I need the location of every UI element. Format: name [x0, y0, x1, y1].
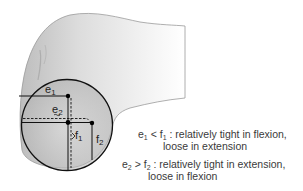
- diagram-stage: e1 e2 f1 f2 e1 < f1 : relatively tight i…: [0, 0, 303, 191]
- point-e1: [66, 94, 70, 98]
- point-f2: [90, 121, 94, 125]
- point-center: [66, 120, 71, 125]
- caption-2-line-2: loose in flexion: [148, 170, 217, 182]
- condyle-circle: [22, 80, 113, 171]
- caption-1-line-2: loose in extension: [163, 140, 247, 152]
